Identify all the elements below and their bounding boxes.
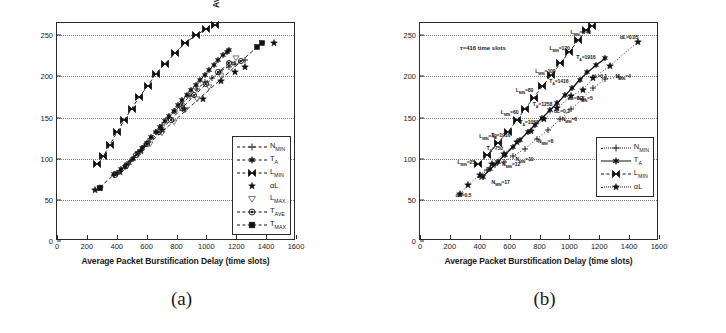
legend-item-L-MIN[interactable]: LMIN [237, 166, 286, 179]
y-tick-label: 100 [40, 154, 53, 163]
y-tick-label: 200 [40, 72, 53, 81]
legend-item-alphaL[interactable]: αL [601, 180, 649, 193]
legend-marker-hexagram-icon [247, 155, 256, 164]
data-point-aL [605, 61, 614, 70]
legend-label: TA [270, 154, 278, 165]
x-tick-label: 1000 [561, 242, 578, 251]
annotation-label: αL=0.5 [455, 192, 471, 198]
data-point-T_AVE [122, 162, 130, 170]
legend-sample [237, 219, 267, 230]
data-point-L_MIN [144, 81, 153, 90]
x-tick-label: 400 [473, 242, 486, 251]
caption-b: (b) [363, 288, 726, 310]
data-point-T_AVE [225, 59, 233, 67]
data-point-N_MIN [544, 126, 552, 134]
legend-item-N-MIN[interactable]: NMIN [237, 140, 286, 153]
data-point-aL [475, 171, 484, 180]
legend-sample [237, 154, 267, 165]
y-tick-label: 50 [408, 195, 416, 204]
series-lines [420, 23, 659, 241]
legend-marker-star-icon [247, 181, 256, 190]
legend-label: TA [634, 155, 642, 166]
legend-b[interactable]: NMINTALMINαL [596, 137, 654, 197]
annotation-label: αL=0.05 [620, 34, 638, 40]
legend-sample [601, 181, 631, 192]
data-point-L_MIN [151, 70, 160, 79]
data-point-T_AVE [202, 80, 210, 88]
legend-marker-bowtie-icon [247, 168, 256, 177]
x-tick-mark [659, 235, 660, 239]
legend-item-L-MAX[interactable]: LMAX [237, 192, 286, 205]
plot-area-a: Average Burst Size (packets) 05010015020… [0, 0, 363, 285]
x-tick-label: 600 [140, 242, 153, 251]
data-point-L_MIN [538, 82, 547, 91]
data-point-T_MAX [96, 184, 104, 192]
legend-label: αL [634, 182, 643, 191]
data-point-T_AVE [178, 104, 186, 112]
legend-item-T-MAX[interactable]: TMAX [237, 218, 286, 231]
data-point-L_MIN [191, 31, 200, 40]
x-axis-title-a: Average Packet Burstification Delay (tim… [56, 256, 295, 266]
legend-marker-triangle-down-icon [247, 194, 256, 203]
legend-sample [237, 180, 267, 191]
annotation-label: LMIN=100 [535, 68, 555, 76]
x-tick-label: 200 [81, 242, 94, 251]
y-tick-label: 0 [49, 237, 53, 246]
data-point-L_MIN [520, 105, 529, 114]
data-point-T_AVE [237, 57, 245, 65]
x-tick-label: 800 [170, 242, 183, 251]
legend-sample [601, 155, 631, 166]
data-point-aL [578, 85, 587, 94]
x-tick-label: 1400 [258, 242, 275, 251]
legend-item-T-A[interactable]: TA [237, 153, 286, 166]
data-point-T_AVE [155, 128, 163, 136]
data-point-aL [526, 126, 535, 135]
data-point-T_AVE [132, 151, 140, 159]
legend-item-alphaL[interactable]: αL [237, 179, 286, 192]
x-tick-mark [296, 235, 297, 239]
annotation-label: LMIN=80 [516, 87, 534, 95]
legend-label: αL [270, 181, 279, 190]
legend-label: LMIN [270, 167, 284, 178]
y-axis-title-a: Average Burst Size (packets) [4, 0, 18, 36]
legend-a[interactable]: NMINTALMINαLLMAXTAVETMAX [232, 136, 291, 235]
data-point-L_MIN [181, 38, 190, 47]
data-point-T_MAX [258, 39, 266, 47]
legend-marker-plus-icon [247, 142, 256, 151]
legend-marker-circle-dot-icon [247, 207, 256, 216]
axes-frame-a: 0501001502002500200400600800100012001400… [56, 22, 295, 240]
legend-sample [237, 206, 267, 217]
annotation-label: NMIN=4 [615, 73, 630, 81]
annotation-label: TA=1916 [491, 132, 510, 140]
legend-item-T-A[interactable]: TA [601, 154, 649, 167]
y-tick-label: 150 [40, 113, 53, 122]
data-point-T_AVE [111, 171, 119, 179]
data-point-T_AVE [167, 116, 175, 124]
legend-sample [237, 167, 267, 178]
legend-sample [237, 141, 267, 152]
annotation-label: TA=1058 [519, 119, 538, 127]
data-point-aL [513, 138, 522, 147]
data-point-L_MIN [112, 128, 121, 137]
legend-label: NMIN [270, 141, 285, 152]
y-tick-label: 50 [45, 195, 53, 204]
data-point-T_A [576, 76, 584, 84]
legend-item-T-AVE[interactable]: TAVE [237, 205, 286, 218]
legend-label: LMAX [270, 193, 286, 204]
annotation-label: TA=1416 [549, 78, 568, 86]
legend-item-N-MIN[interactable]: NMIN [601, 141, 649, 154]
legend-item-L-MIN[interactable]: LMIN [601, 167, 649, 180]
legend-sample [601, 142, 631, 153]
legend-marker-bowtie-icon [611, 169, 620, 178]
y-tick-label: 0 [412, 237, 416, 246]
annotation-label: LMIN=60 [501, 109, 519, 117]
data-point-T_AVE [214, 68, 222, 76]
x-tick-label: 200 [444, 242, 457, 251]
caption-a: (a) [0, 288, 363, 310]
legend-label: LMIN [634, 168, 648, 179]
annotation-label: NMIN=6 [562, 116, 577, 124]
panel-a: Average Burst Size (packets) 05010015020… [0, 0, 363, 333]
y-tick-label: 250 [40, 31, 53, 40]
annotation-label: LMIN=140 [570, 29, 590, 37]
legend-sample [601, 168, 631, 179]
